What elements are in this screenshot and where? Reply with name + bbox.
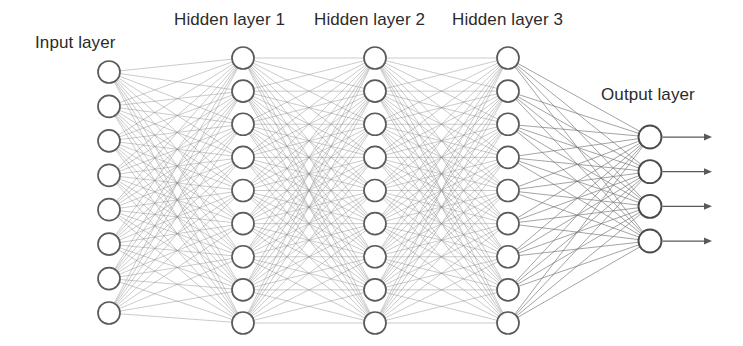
output-arrow-head-4 [704,238,712,245]
neuron-hidden2-2 [364,80,386,102]
neuron-hidden1-3 [232,113,254,135]
neuron-hidden2-9 [364,312,386,334]
neuron-hidden1-5 [232,180,254,202]
neuron-hidden1-1 [232,47,254,69]
neuron-hidden3-5 [497,180,519,202]
output-arrow-head-2 [704,168,712,175]
output-arrow-head-1 [704,134,712,141]
neuron-hidden1-2 [232,80,254,102]
neuron-input-8 [98,302,120,324]
neuron-input-3 [98,130,120,152]
neuron-hidden2-6 [364,213,386,235]
output-arrow-head-3 [704,203,712,210]
neural-network-diagram: Input layer Hidden layer 1 Hidden layer … [0,0,743,346]
neuron-hidden2-5 [364,180,386,202]
layer-label-output: Output layer [601,85,695,105]
neuron-output-3 [639,195,662,218]
output-arrows-group [663,134,713,245]
neuron-hidden1-7 [232,246,254,268]
neuron-hidden3-4 [497,146,519,168]
neuron-hidden1-9 [232,312,254,334]
neuron-input-7 [98,268,120,290]
neuron-hidden3-8 [497,279,519,301]
neuron-input-6 [98,233,120,255]
neuron-hidden1-6 [232,213,254,235]
neuron-hidden2-8 [364,279,386,301]
layer-label-hidden-1: Hidden layer 1 [174,10,285,30]
layer-label-hidden-3: Hidden layer 3 [452,10,563,30]
neuron-input-1 [98,61,120,83]
layer-label-input: Input layer [35,33,115,53]
neuron-output-2 [639,160,662,183]
neuron-input-4 [98,164,120,186]
neuron-hidden2-1 [364,47,386,69]
neuron-hidden2-7 [364,246,386,268]
neuron-hidden1-8 [232,279,254,301]
neuron-hidden3-6 [497,213,519,235]
neuron-hidden2-3 [364,113,386,135]
neuron-hidden3-2 [497,80,519,102]
neuron-output-1 [639,126,662,149]
layer-label-hidden-2: Hidden layer 2 [314,10,425,30]
neuron-input-5 [98,199,120,221]
neuron-output-4 [639,230,662,253]
neuron-hidden3-7 [497,246,519,268]
neuron-hidden3-9 [497,312,519,334]
neuron-hidden1-4 [232,146,254,168]
neuron-hidden3-3 [497,113,519,135]
neuron-hidden2-4 [364,146,386,168]
nodes-group [98,47,662,334]
neuron-hidden3-1 [497,47,519,69]
neuron-input-2 [98,95,120,117]
